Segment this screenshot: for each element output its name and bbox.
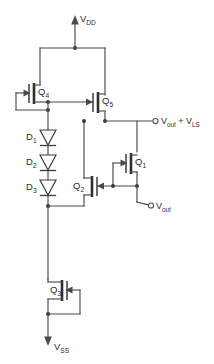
vdd-supply: VDD xyxy=(71,13,96,50)
d2-label: D2 xyxy=(26,156,37,169)
diode-stack: D1 D2 D3 xyxy=(26,110,56,208)
vout-terminal-lead xyxy=(137,202,149,205)
vout-label: Vout xyxy=(156,201,171,213)
vss-arrow-icon xyxy=(44,337,52,347)
shifted-output-net: Vout + VLS xyxy=(103,116,200,152)
vdd-label: VDD xyxy=(80,13,96,26)
vdd-arrow-icon xyxy=(71,15,79,25)
vdd-rail xyxy=(40,48,105,95)
q4-label: Q4 xyxy=(38,86,49,99)
schematic-svg: VDD Q4 xyxy=(0,0,214,364)
q2-label: Q2 xyxy=(73,180,84,193)
vss-label: VSS xyxy=(54,341,70,354)
transistor-q3: Q3 xyxy=(46,279,80,316)
vout-vls-label: Vout + VLS xyxy=(161,116,200,128)
d1-label: D1 xyxy=(26,131,37,144)
q5-label: Q5 xyxy=(102,95,113,108)
q3-label: Q3 xyxy=(50,284,61,297)
diode-d1: D1 xyxy=(26,130,56,155)
transistor-q5: Q5 xyxy=(93,92,113,121)
q2-drain-node-dot xyxy=(82,119,86,123)
transistor-q1: Q1 xyxy=(113,153,146,186)
q1-label: Q1 xyxy=(135,156,146,169)
d2-triangle xyxy=(40,155,56,170)
vss-supply: VSS xyxy=(44,314,70,354)
diode-d3: D3 xyxy=(26,180,56,206)
transistor-q4: Q4 xyxy=(16,82,50,112)
driver-gate-net: Vout xyxy=(97,183,171,213)
q5-gate-arrow-icon xyxy=(86,99,93,106)
d1-triangle xyxy=(40,130,56,145)
q2-gate-arrow-icon xyxy=(97,183,104,190)
circuit-schematic-canvas: VDD Q4 xyxy=(0,0,214,364)
gate-net-dot-left xyxy=(111,184,115,188)
mirror-gate-net xyxy=(48,99,93,106)
d3-label: D3 xyxy=(26,181,37,194)
diode-d2: D2 xyxy=(26,155,56,180)
vout-terminal-circle[interactable] xyxy=(148,203,153,208)
vout-vls-terminal-circle[interactable] xyxy=(153,118,158,123)
d3-triangle xyxy=(40,180,56,195)
